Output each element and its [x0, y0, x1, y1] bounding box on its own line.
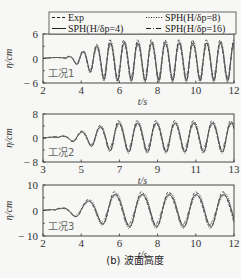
- x-axis-label: t/s: [138, 175, 148, 186]
- x-tick-label: 12: [229, 237, 240, 249]
- x-tick-label: 10: [190, 84, 202, 96]
- y-tick-label: − 6: [24, 77, 39, 89]
- x-tick-label: 3: [40, 163, 46, 175]
- panel-2: 35791113− 808η/cmt/s工况2: [3, 108, 240, 186]
- legend-sph16-label: SPH(H/δp=16): [165, 23, 225, 35]
- x-tick-label: 5: [78, 163, 84, 175]
- x-tick-label: 7: [117, 163, 123, 175]
- y-tick-label: 8: [33, 108, 39, 120]
- y-tick-label: 6: [33, 28, 39, 40]
- x-tick-label: 4: [78, 84, 84, 96]
- y-tick-label: − 8: [24, 156, 39, 168]
- legend-exp-label: Exp: [68, 12, 84, 23]
- y-tick-label: 0: [33, 53, 39, 65]
- x-tick-label: 12: [229, 84, 240, 96]
- y-tick-label: 0: [33, 205, 39, 217]
- panel-1: 24681012− 606η/cmt/s工况1: [3, 28, 240, 107]
- x-tick-label: 6: [117, 84, 123, 96]
- case-label: 工况1: [48, 68, 74, 79]
- panel-3: 24681012− 10010η/cmt/s工况3: [3, 179, 240, 260]
- x-tick-label: 10: [190, 237, 202, 249]
- x-tick-label: 2: [40, 237, 46, 249]
- x-tick-label: 11: [191, 163, 202, 175]
- y-tick-label: 10: [27, 179, 39, 191]
- legend: Exp SPH(H/δp=4) SPH(H/δp=8) SPH(H/δp=16): [49, 12, 236, 35]
- wave-height-figure: 24681012− 606η/cmt/s工况135791113− 808η/cm…: [0, 0, 241, 278]
- y-axis-label: η/cm: [3, 49, 14, 68]
- case-label: 工况2: [48, 147, 74, 158]
- y-tick-label: − 10: [18, 230, 38, 242]
- legend-sph4-label: SPH(H/δp=4): [68, 23, 123, 35]
- x-tick-label: 4: [78, 237, 84, 249]
- x-tick-label: 6: [117, 237, 123, 249]
- x-axis-label: t/s: [138, 96, 148, 107]
- case-label: 工况3: [48, 221, 74, 232]
- y-axis-label: η/cm: [3, 128, 14, 147]
- x-tick-label: 8: [155, 237, 161, 249]
- y-axis-label: η/cm: [3, 201, 14, 220]
- figure-caption: (b) 波面高度: [106, 254, 163, 266]
- x-tick-label: 8: [155, 84, 161, 96]
- x-tick-label: 13: [229, 163, 241, 175]
- x-tick-label: 9: [155, 163, 161, 175]
- y-tick-label: 0: [33, 132, 39, 144]
- x-tick-label: 2: [40, 84, 46, 96]
